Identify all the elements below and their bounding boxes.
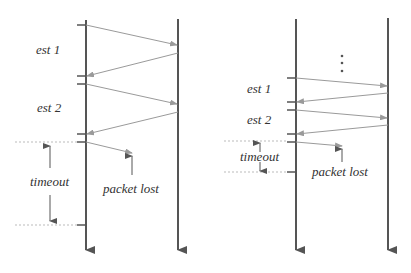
messages: [86, 25, 178, 153]
data-packet-1: [296, 78, 387, 86]
rtt-timeout-diagram: est 1 est 2 timeout packet lost: [0, 0, 411, 273]
est2-label: est 2: [37, 100, 62, 115]
data-packet-2: [296, 110, 387, 118]
timeout-label: timeout: [240, 149, 279, 164]
lost-packet: [86, 142, 132, 153]
right-diagram: est 1 est 2 timeout packet lost: [224, 18, 388, 250]
est2-label: est 2: [247, 112, 272, 127]
left-diagram: est 1 est 2 timeout packet lost: [15, 19, 178, 250]
est1-label: est 1: [247, 81, 271, 96]
packet-lost-label: packet lost: [102, 181, 159, 196]
ack-2: [297, 125, 388, 134]
sender-ticks: [287, 78, 296, 172]
est1-label: est 1: [36, 42, 60, 57]
data-packet-2: [86, 84, 177, 104]
messages: [296, 78, 388, 146]
timeout-label: timeout: [30, 174, 69, 189]
ack-1: [297, 93, 388, 102]
ack-2: [87, 112, 178, 134]
sender-ticks: [77, 25, 86, 225]
ack-1: [87, 53, 178, 76]
ellipsis-icon: [341, 55, 344, 73]
packet-lost-label: packet lost: [311, 164, 368, 179]
data-packet-1: [86, 25, 177, 45]
lost-packet: [296, 142, 342, 146]
